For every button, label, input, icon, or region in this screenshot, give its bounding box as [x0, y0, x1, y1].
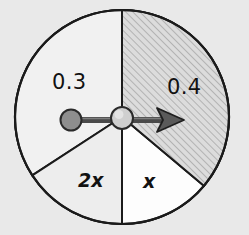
sector-label-x: x: [143, 170, 155, 192]
sector-label-2x: 2x: [78, 169, 103, 191]
needle-tail-weight: [61, 110, 82, 131]
sector-label-0-3: 0.3: [52, 70, 86, 94]
spinner-figure: 0.3 0.4 2x x: [0, 0, 249, 235]
needle-hub-highlight: [115, 110, 124, 119]
sector-label-0-4: 0.4: [167, 75, 201, 99]
needle-hub: [111, 107, 133, 129]
spinner-diagram: [0, 0, 249, 235]
